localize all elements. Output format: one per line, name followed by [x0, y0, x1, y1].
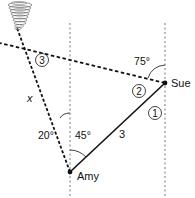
circle-label-1-text: 1: [152, 108, 158, 119]
amy-point: [68, 170, 73, 175]
length-label-3: 3: [119, 128, 125, 140]
circle-label-3: 3: [36, 54, 49, 67]
tornado-icon: [8, 2, 32, 30]
angle-arc-75: [148, 65, 165, 78]
circle-label-2-text: 2: [136, 86, 142, 97]
angle-arc-20: [60, 113, 70, 118]
angle-arc-45: [70, 150, 86, 157]
circle-label-1: 1: [149, 107, 162, 120]
length-label-x: x: [26, 92, 33, 104]
diagram-canvas: 3 2 1 3 x 20° 45° 75° Amy Sue: [0, 0, 195, 198]
sue-point: [163, 81, 168, 86]
segment-amy-tornado: [17, 28, 70, 172]
sue-label: Sue: [171, 77, 191, 89]
circle-label-2: 2: [133, 85, 146, 98]
angle-label-20: 20°: [38, 129, 54, 141]
circle-label-3-text: 3: [39, 55, 45, 66]
angle-label-75: 75°: [134, 55, 150, 67]
angle-label-45: 45°: [75, 129, 91, 141]
segment-amy-sue: [70, 83, 165, 172]
amy-label: Amy: [77, 170, 100, 182]
